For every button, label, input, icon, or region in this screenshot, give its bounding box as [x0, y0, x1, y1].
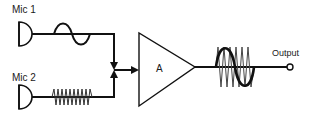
mic-2-label: Mic 2	[12, 72, 36, 83]
mic-2-icon	[19, 85, 32, 109]
right-arrow-icon	[131, 66, 139, 74]
mixer-amplifier-diagram: Mic 1 Mic 2 A Output	[0, 0, 314, 119]
mic-1-icon	[19, 22, 32, 46]
amplifier-label: A	[156, 63, 163, 74]
output-terminal-icon	[287, 64, 293, 70]
down-arrow-icon	[110, 62, 118, 70]
up-arrow-icon	[110, 70, 118, 78]
diagram-canvas	[0, 0, 314, 119]
mic-1-label: Mic 1	[12, 4, 36, 15]
amplifier-triangle-icon	[139, 33, 195, 106]
output-label: Output	[272, 48, 299, 58]
